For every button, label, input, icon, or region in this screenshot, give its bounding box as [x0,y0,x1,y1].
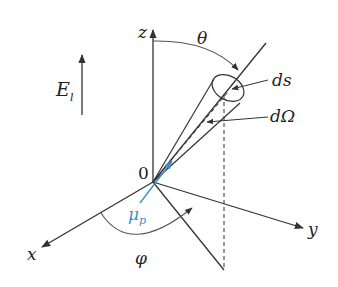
dipole-subscript: p [139,214,146,227]
theta-label: θ [197,30,207,47]
phi-arc [101,208,192,234]
y-axis-label: y [308,221,318,238]
z-axis-label: z [138,24,147,41]
coordinate-diagram [0,0,338,287]
ds-pointer [232,80,268,89]
y-axis [153,182,303,228]
phi-label: φ [135,250,147,267]
x-axis-label: x [27,246,37,263]
theta-arc [153,41,238,70]
domega-pointer [207,117,268,122]
dipole-label: μp [128,206,146,226]
origin-label: 0 [138,165,149,182]
projection-line [153,182,224,270]
solid-angle-cone [153,69,249,182]
field-symbol: E [56,78,70,100]
dipole-symbol: μ [128,204,139,224]
field-label: El [56,80,73,103]
radial-ray [153,43,266,182]
ds-label: ds [272,72,292,89]
field-subscript: l [70,91,74,104]
domega-label: dΩ [270,108,295,125]
